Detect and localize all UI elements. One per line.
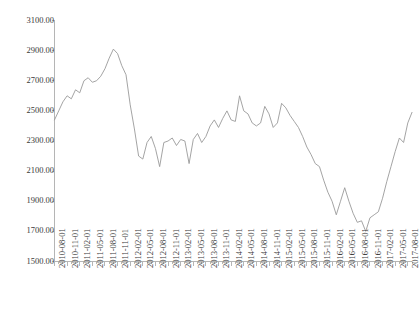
x-axis-tick-label: 2015-05-01	[298, 228, 307, 268]
x-axis-tick-label: 2011-08-01	[109, 228, 118, 267]
x-axis-tick-label: 2015-08-01	[310, 228, 319, 268]
x-axis-tick-label: 2016-02-01	[336, 228, 345, 268]
x-axis-tick-label: 2013-02-01	[184, 228, 193, 268]
x-axis-tick-label: 2016-05-01	[348, 228, 357, 268]
x-axis-tick-label: 2015-11-01	[323, 228, 332, 267]
x-axis-tick-label: 2017-05-01	[399, 228, 408, 268]
x-axis-tick-label: 2012-02-01	[134, 228, 143, 268]
x-axis-tick-label: 2017-08-01	[411, 228, 420, 268]
x-axis-tick-label: 2013-11-01	[222, 228, 231, 267]
x-axis-tick-label: 2013-05-01	[197, 228, 206, 268]
x-axis-tick-label: 2012-08-01	[159, 228, 168, 268]
x-axis-tick-label: 2013-08-01	[210, 228, 219, 268]
x-axis-tick-label: 2015-02-01	[285, 228, 294, 268]
x-axis-tick-label: 2014-02-01	[235, 228, 244, 268]
x-axis-tick-label: 2017-02-01	[386, 228, 395, 268]
x-axis-tick-label: 2014-05-01	[247, 228, 256, 268]
x-axis-tick-label: 2012-11-01	[172, 228, 181, 267]
x-axis-tick-label: 2014-11-01	[273, 228, 282, 267]
x-axis-tick-label: 2014-08-01	[260, 228, 269, 268]
x-axis-tick-label: 2010-08-01	[58, 228, 67, 268]
x-axis-tick-label: 2011-05-01	[96, 228, 105, 267]
x-axis-tick-label: 2016-11-01	[374, 228, 383, 267]
x-axis-tick-label: 2011-02-01	[83, 228, 92, 267]
x-axis-tick-label: 2016-08-01	[361, 228, 370, 268]
x-axis-tick-label: 2010-11-01	[71, 228, 80, 267]
x-axis-tick-label: 2011-11-01	[121, 228, 130, 267]
x-axis-tick-label: 2012-05-01	[146, 228, 155, 268]
